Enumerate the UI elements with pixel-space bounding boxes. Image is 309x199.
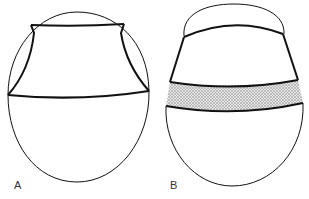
figure-a-left-curve xyxy=(8,25,34,95)
panel-label-a: A xyxy=(14,179,21,191)
figure-b-right-side xyxy=(283,34,298,80)
figure-a-right-curve xyxy=(121,24,149,91)
figure-a xyxy=(8,12,149,182)
figure-b xyxy=(166,4,303,186)
panel-label-b: B xyxy=(170,179,177,191)
figure-a-top-line xyxy=(31,24,124,26)
figure-b-left-side xyxy=(170,37,184,82)
figure-a-bottom-line xyxy=(8,91,149,98)
figure-b-top-line xyxy=(184,25,283,37)
figure-b-outline-bottom xyxy=(166,103,303,186)
diagram-canvas xyxy=(0,0,309,199)
